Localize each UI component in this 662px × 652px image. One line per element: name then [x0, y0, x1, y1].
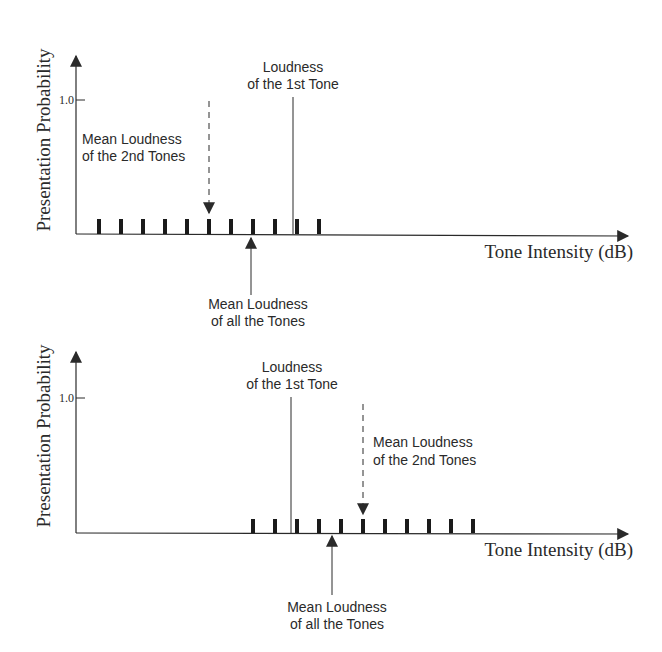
tone-bars	[251, 519, 475, 533]
top-panel: 1.0 Presentation Probability Tone Intens…	[33, 48, 633, 329]
x-axis-title: Tone Intensity (dB)	[484, 241, 633, 263]
second-tones-label-line1: Mean Loudness	[373, 434, 473, 450]
x-axis-title: Tone Intensity (dB)	[484, 539, 633, 561]
first-tone-label-line2: of the 1st Tone	[247, 76, 339, 92]
second-tones-label-line2: of the 2nd Tones	[82, 148, 185, 164]
y-axis-title: Presentation Probability	[33, 48, 54, 232]
all-tones-label-line1: Mean Loudness	[208, 296, 308, 312]
tone-bars	[97, 219, 321, 234]
first-tone-label-line1: Loudness	[263, 59, 324, 75]
first-tone-label-line1: Loudness	[262, 359, 323, 375]
y-axis-title: Presentation Probability	[33, 344, 54, 528]
first-tone-label-line2: of the 1st Tone	[246, 376, 338, 392]
all-tones-label-line1: Mean Loudness	[287, 599, 387, 615]
second-tones-label-line2: of the 2nd Tones	[373, 452, 476, 468]
diagram-canvas: 1.0 Presentation Probability Tone Intens…	[0, 0, 662, 652]
all-tones-label-line2: of all the Tones	[290, 616, 384, 632]
second-tones-label-line1: Mean Loudness	[82, 131, 182, 147]
all-tones-label-line2: of all the Tones	[211, 313, 305, 329]
bottom-panel: 1.0 Presentation Probability Tone Intens…	[33, 344, 633, 632]
x-axis	[76, 533, 628, 534]
y-tick-label: 1.0	[59, 391, 74, 405]
y-tick-label: 1.0	[59, 93, 74, 107]
x-axis	[76, 234, 628, 236]
